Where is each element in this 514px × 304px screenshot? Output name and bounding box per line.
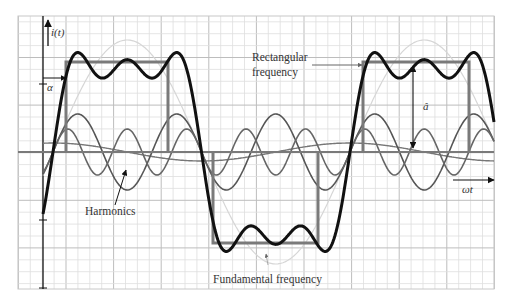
rectangular-label: Rectangular <box>252 51 308 64</box>
rectangular-label-2: frequency <box>252 66 298 79</box>
y-axis-label: i(t) <box>51 26 65 39</box>
x-axis-label: ωt <box>462 183 474 195</box>
harmonics-pointer <box>115 170 126 205</box>
annotations: i(t) α Rectangular frequency â Harmonics… <box>43 26 474 286</box>
rectangular-pulse <box>66 62 168 152</box>
harmonics-label: Harmonics <box>85 205 136 217</box>
harmonics-diagram: i(t) α Rectangular frequency â Harmonics… <box>0 0 514 304</box>
amplitude-label: â <box>423 100 429 112</box>
fundamental-label: Fundamental frequency <box>213 273 322 286</box>
alpha-label: α <box>47 81 53 93</box>
rectangular-pulse <box>213 152 318 243</box>
